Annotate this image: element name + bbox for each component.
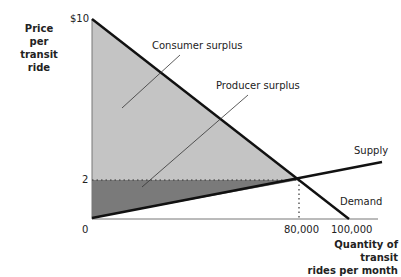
y-tick-2: 2 bbox=[82, 174, 88, 186]
x-title-line1: Quantity of transit bbox=[302, 238, 398, 264]
y-title-line2: transit ride bbox=[14, 48, 64, 74]
x-axis-title: Quantity of transit rides per month bbox=[302, 238, 398, 277]
demand-label: Demand bbox=[340, 196, 382, 208]
x-tick-80000: 80,000 bbox=[284, 224, 319, 236]
x-tick-100000: 100,000 bbox=[331, 224, 372, 236]
y-tick-10: $10 bbox=[70, 13, 89, 25]
consumer-surplus-label: Consumer surplus bbox=[152, 40, 243, 52]
supply-label: Supply bbox=[354, 145, 388, 157]
x-title-line2: rides per month bbox=[302, 264, 398, 277]
y-title-line1: Price per bbox=[14, 22, 64, 48]
y-axis-title: Price per transit ride bbox=[14, 22, 64, 74]
origin-label: 0 bbox=[82, 224, 88, 236]
producer-surplus-label: Producer surplus bbox=[216, 80, 300, 92]
